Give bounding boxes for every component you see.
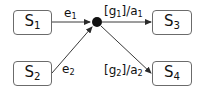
edge-label-g2-a2: [g2]/a2 (104, 64, 143, 77)
state-s1: S1 (13, 10, 52, 35)
edge-label-g1-a1: [g1]/a1 (104, 5, 143, 18)
edge-label-e1: e1 (64, 7, 77, 20)
diagram-canvas: S1 S2 S3 S4 e1 e2 [g1]/a1 [g2]/a2 (0, 0, 202, 92)
state-s1-label: S1 (24, 14, 40, 31)
junction-dot (92, 17, 102, 27)
state-s3: S3 (152, 10, 192, 35)
edge-label-e2: e2 (62, 63, 75, 76)
state-s4-label: S4 (164, 65, 180, 82)
state-s2: S2 (13, 61, 52, 86)
state-s4: S4 (152, 61, 192, 86)
state-s3-label: S3 (164, 14, 180, 31)
state-s2-label: S2 (24, 65, 40, 82)
